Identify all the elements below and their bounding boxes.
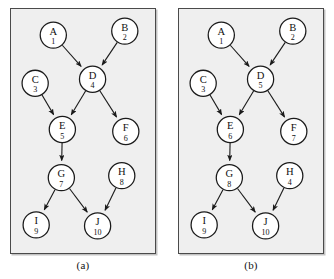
graph-edge-B-to-D xyxy=(270,42,285,65)
panel-caption: (a) xyxy=(77,259,90,271)
graph-panel-box: A1B2C3D5E6F7G8H4I9J10 xyxy=(178,8,324,254)
graph-edge-C-to-E xyxy=(42,95,54,115)
node-letter-G: G xyxy=(58,168,66,179)
graph-node-B[interactable]: B2 xyxy=(112,18,138,44)
graph-node-J[interactable]: J10 xyxy=(253,213,279,239)
node-number-E: 5 xyxy=(60,132,64,141)
node-number-G: 8 xyxy=(227,180,231,189)
graph-node-I[interactable]: I9 xyxy=(23,212,49,238)
node-letter-C: C xyxy=(200,74,207,85)
directed-graph: A1B2C3D4E5F6G7H8I9J10 xyxy=(11,9,155,253)
graph-node-D[interactable]: D5 xyxy=(247,66,273,92)
node-letter-E: E xyxy=(59,120,65,131)
node-number-J: 10 xyxy=(94,228,102,237)
node-letter-G: G xyxy=(226,168,234,179)
graph-nodes: A1B2C3D4E5F6G7H8I9J10 xyxy=(22,18,139,239)
node-number-D: 5 xyxy=(259,81,263,90)
graph-edge-G-to-J xyxy=(70,189,88,213)
graph-node-C[interactable]: C3 xyxy=(190,70,216,96)
node-letter-D: D xyxy=(257,70,265,81)
graph-edge-D-to-F xyxy=(100,91,117,117)
graph-edge-H-to-J xyxy=(105,188,116,210)
graph-node-G[interactable]: G8 xyxy=(216,165,242,191)
node-letter-F: F xyxy=(291,122,297,133)
node-number-G: 7 xyxy=(59,180,63,189)
graph-node-D[interactable]: D4 xyxy=(79,66,105,92)
graph-node-H[interactable]: H8 xyxy=(109,163,135,189)
node-letter-A: A xyxy=(49,26,57,37)
graph-edge-C-to-E xyxy=(210,95,222,115)
node-letter-E: E xyxy=(227,120,233,131)
node-number-B: 2 xyxy=(123,33,127,42)
node-letter-H: H xyxy=(118,166,126,177)
node-letter-H: H xyxy=(286,166,294,177)
node-number-H: 8 xyxy=(120,178,124,187)
graph-edge-D-to-E xyxy=(71,91,85,115)
node-number-H: 4 xyxy=(288,178,292,187)
graph-edge-D-to-F xyxy=(268,91,285,117)
node-number-F: 6 xyxy=(124,134,128,143)
node-number-J: 10 xyxy=(262,228,270,237)
node-number-I: 9 xyxy=(202,227,206,236)
figure-container: A1B2C3D4E5F6G7H8I9J10(a)A1B2C3D5E6F7G8H4… xyxy=(0,0,334,279)
node-letter-I: I xyxy=(34,215,38,226)
node-letter-B: B xyxy=(289,22,296,33)
figure-panel-b: A1B2C3D5E6F7G8H4I9J10(b) xyxy=(177,8,325,271)
graph-node-A[interactable]: A1 xyxy=(208,22,234,48)
graph-node-C[interactable]: C3 xyxy=(22,70,48,96)
graph-panel-box: A1B2C3D4E5F6G7H8I9J10 xyxy=(10,8,156,254)
graph-edge-B-to-D xyxy=(102,42,117,65)
graph-node-A[interactable]: A1 xyxy=(40,22,66,48)
graph-edge-G-to-I xyxy=(212,190,223,210)
graph-node-E[interactable]: E5 xyxy=(49,116,75,142)
graph-node-F[interactable]: F6 xyxy=(113,118,139,144)
directed-graph: A1B2C3D5E6F7G8H4I9J10 xyxy=(179,9,323,253)
graph-node-J[interactable]: J10 xyxy=(85,213,111,239)
node-letter-B: B xyxy=(121,22,128,33)
node-number-F: 7 xyxy=(292,134,296,143)
node-number-C: 3 xyxy=(201,85,205,94)
graph-node-G[interactable]: G7 xyxy=(48,165,74,191)
graph-edge-H-to-J xyxy=(273,188,284,210)
graph-edge-D-to-E xyxy=(239,91,253,115)
node-number-I: 9 xyxy=(34,227,38,236)
node-number-A: 1 xyxy=(219,37,223,46)
node-letter-I: I xyxy=(202,215,206,226)
graph-nodes: A1B2C3D5E6F7G8H4I9J10 xyxy=(190,18,307,239)
node-letter-A: A xyxy=(217,26,225,37)
node-letter-D: D xyxy=(89,70,97,81)
panel-caption: (b) xyxy=(244,259,257,271)
node-number-D: 4 xyxy=(91,81,95,90)
node-number-C: 3 xyxy=(33,85,37,94)
graph-node-B[interactable]: B2 xyxy=(280,18,306,44)
figure-panel-a: A1B2C3D4E5F6G7H8I9J10(a) xyxy=(9,8,157,271)
node-letter-J: J xyxy=(96,216,100,227)
graph-edge-A-to-D xyxy=(62,45,81,66)
graph-node-F[interactable]: F7 xyxy=(281,118,307,144)
node-letter-J: J xyxy=(264,216,268,227)
graph-edge-A-to-D xyxy=(230,45,249,66)
node-letter-C: C xyxy=(32,74,39,85)
node-number-E: 6 xyxy=(228,132,232,141)
graph-node-I[interactable]: I9 xyxy=(191,212,217,238)
node-number-A: 1 xyxy=(51,37,55,46)
graph-node-E[interactable]: E6 xyxy=(217,116,243,142)
graph-edge-G-to-J xyxy=(238,189,256,213)
node-letter-F: F xyxy=(123,122,129,133)
graph-edge-G-to-I xyxy=(44,190,55,210)
node-number-B: 2 xyxy=(291,33,295,42)
graph-node-H[interactable]: H4 xyxy=(277,163,303,189)
